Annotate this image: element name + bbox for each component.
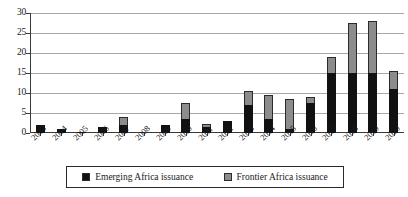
stacked-bar-chart-figure: 051015202530 200320042005200620072008200… bbox=[0, 0, 408, 197]
bar-segment-frontier-2019 bbox=[368, 21, 377, 73]
x-axis-labels: 2003200420052006200720082009201020112012… bbox=[30, 133, 404, 167]
bar-segment-frontier-2013 bbox=[244, 91, 253, 105]
x-tick-slot-2009: 2009 bbox=[155, 133, 176, 167]
legend-label-frontier: Frontier Africa issuance bbox=[237, 172, 328, 182]
x-tick-slot-2018: 2018 bbox=[342, 133, 363, 167]
x-tick-slot-2013: 2013 bbox=[238, 133, 259, 167]
bar-slot-2012 bbox=[217, 13, 238, 133]
x-tick-slot-2016: 2016 bbox=[300, 133, 321, 167]
bar-segment-frontier-2010 bbox=[181, 103, 190, 119]
bar-slot-2004 bbox=[51, 13, 72, 133]
bar-slot-2020 bbox=[383, 13, 404, 133]
x-tick-slot-2020: 2020 bbox=[383, 133, 404, 167]
bar-stack-2018[interactable] bbox=[348, 23, 357, 133]
bar-segment-frontier-2018 bbox=[348, 23, 357, 73]
bar-slot-2019 bbox=[363, 13, 384, 133]
bar-stack-2019[interactable] bbox=[368, 21, 377, 133]
bar-slot-2003 bbox=[30, 13, 51, 133]
legend-label-emerging: Emerging Africa issuance bbox=[95, 172, 193, 182]
y-tick-label-5: 5 bbox=[2, 108, 26, 118]
x-tick-slot-2014: 2014 bbox=[259, 133, 280, 167]
bar-slot-2015 bbox=[279, 13, 300, 133]
bar-slot-2014 bbox=[259, 13, 280, 133]
legend-entry-emerging[interactable]: Emerging Africa issuance bbox=[82, 172, 193, 182]
bar-slot-2011 bbox=[196, 13, 217, 133]
x-tick-slot-2008: 2008 bbox=[134, 133, 155, 167]
legend-swatch-frontier-icon bbox=[224, 173, 232, 181]
y-tick-label-25: 25 bbox=[2, 28, 26, 38]
bars-container bbox=[30, 13, 404, 133]
chart-legend: Emerging Africa issuanceFrontier Africa … bbox=[66, 166, 344, 188]
x-tick-slot-2003: 2003 bbox=[30, 133, 51, 167]
bar-stack-2017[interactable] bbox=[327, 57, 336, 133]
x-tick-slot-2015: 2015 bbox=[279, 133, 300, 167]
x-tick-slot-2012: 2012 bbox=[217, 133, 238, 167]
bar-slot-2018 bbox=[342, 13, 363, 133]
y-tick-label-0: 0 bbox=[2, 128, 26, 138]
bar-slot-2007 bbox=[113, 13, 134, 133]
bar-segment-frontier-2017 bbox=[327, 57, 336, 73]
bar-slot-2005 bbox=[72, 13, 93, 133]
x-tick-slot-2010: 2010 bbox=[175, 133, 196, 167]
x-tick-slot-2019: 2019 bbox=[363, 133, 384, 167]
bar-segment-frontier-2020 bbox=[389, 71, 398, 89]
legend-swatch-emerging-icon bbox=[82, 173, 90, 181]
x-tick-slot-2006: 2006 bbox=[92, 133, 113, 167]
y-tick-label-10: 10 bbox=[2, 88, 26, 98]
y-tick-label-15: 15 bbox=[2, 68, 26, 78]
bar-slot-2017 bbox=[321, 13, 342, 133]
x-tick-slot-2005: 2005 bbox=[72, 133, 93, 167]
legend-entry-frontier[interactable]: Frontier Africa issuance bbox=[224, 172, 328, 182]
x-tick-slot-2007: 2007 bbox=[113, 133, 134, 167]
y-tick-label-30: 30 bbox=[2, 8, 26, 18]
bar-slot-2016 bbox=[300, 13, 321, 133]
x-tick-slot-2004: 2004 bbox=[51, 133, 72, 167]
bar-slot-2010 bbox=[175, 13, 196, 133]
plot-wrapper: 051015202530 200320042005200620072008200… bbox=[0, 0, 408, 150]
bar-slot-2006 bbox=[92, 13, 113, 133]
bar-slot-2013 bbox=[238, 13, 259, 133]
x-tick-slot-2017: 2017 bbox=[321, 133, 342, 167]
y-tick-label-20: 20 bbox=[2, 48, 26, 58]
bar-segment-frontier-2014 bbox=[264, 95, 273, 119]
x-tick-slot-2011: 2011 bbox=[196, 133, 217, 167]
bar-slot-2008 bbox=[134, 13, 155, 133]
bar-slot-2009 bbox=[155, 13, 176, 133]
